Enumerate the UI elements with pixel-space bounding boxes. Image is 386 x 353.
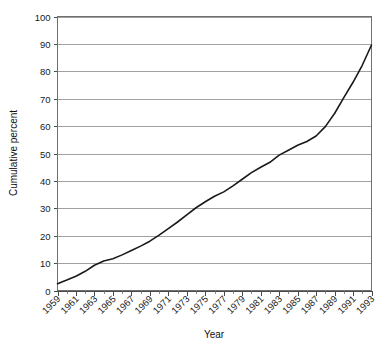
y-tick-label-20: 20 — [40, 231, 51, 242]
y-tick-label-0: 0 — [45, 286, 50, 297]
y-tick-label-90: 90 — [40, 39, 51, 50]
chart-figure: 0102030405060708090100 19591961196319651… — [0, 0, 386, 353]
x-axis-title: Year — [204, 329, 225, 340]
y-tick-label-30: 30 — [40, 203, 51, 214]
cumulative-percent-line-chart: 0102030405060708090100 19591961196319651… — [0, 0, 386, 353]
y-tick-label-40: 40 — [40, 176, 51, 187]
y-tick-label-50: 50 — [40, 149, 51, 160]
y-tick-label-10: 10 — [40, 258, 51, 269]
y-axis-title: Cumulative percent — [8, 110, 19, 196]
y-tick-label-80: 80 — [40, 66, 51, 77]
y-tick-label-100: 100 — [35, 12, 51, 23]
y-tick-label-70: 70 — [40, 94, 51, 105]
y-tick-label-60: 60 — [40, 121, 51, 132]
